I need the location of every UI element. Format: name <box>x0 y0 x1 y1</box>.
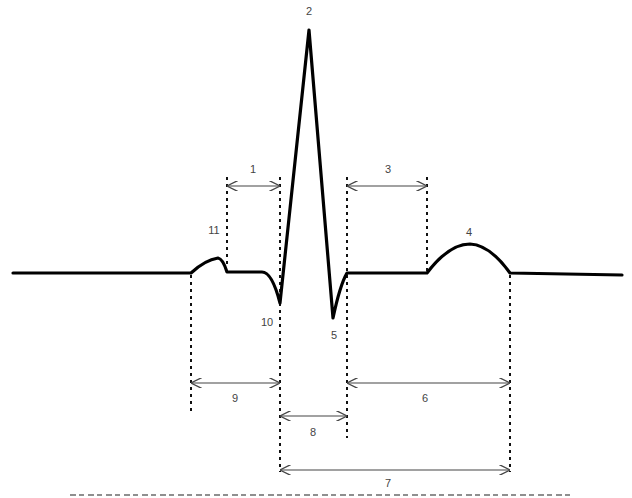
label-3: 3 <box>385 163 391 175</box>
label-9: 9 <box>232 392 238 404</box>
guide-lines <box>191 177 510 472</box>
ecg-diagram: 1 2 3 4 5 6 7 8 9 10 11 <box>0 0 632 498</box>
label-6: 6 <box>422 392 428 404</box>
figure-caption-clipped <box>70 492 570 498</box>
label-1: 1 <box>250 163 256 175</box>
interval-arrows <box>192 186 509 470</box>
caption-text-clipped <box>70 494 570 496</box>
label-5: 5 <box>331 329 337 341</box>
label-8: 8 <box>310 426 316 438</box>
label-4: 4 <box>466 226 472 238</box>
label-7: 7 <box>385 477 391 489</box>
label-2: 2 <box>306 5 312 17</box>
ecg-waveform <box>13 30 622 318</box>
label-10: 10 <box>261 316 273 328</box>
label-11: 11 <box>208 224 219 236</box>
